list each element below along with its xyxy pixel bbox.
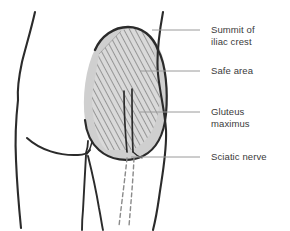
- left-hip-contour: [16, 100, 21, 228]
- gluteal-fold: [27, 138, 90, 155]
- gluteal-injection-diagram: Summit of iliac crest Safe area Gluteus …: [0, 0, 290, 231]
- natal-cleft: [86, 141, 92, 154]
- left-waist-contour: [18, 12, 35, 100]
- label-summit-of-iliac-crest: Summit of iliac crest: [211, 24, 255, 47]
- label-sciatic-nerve: Sciatic nerve: [211, 151, 267, 163]
- label-safe-area: Safe area: [211, 65, 253, 77]
- sciatic-nerve-dashed: [119, 158, 134, 226]
- label-gluteus-maximus: Gluteus maximus: [211, 106, 250, 129]
- inner-thigh-lines: [82, 155, 103, 230]
